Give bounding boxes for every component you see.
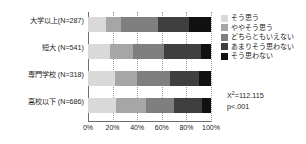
legend-item-1: ややそう思う	[221, 24, 306, 32]
bar-segment	[88, 44, 110, 59]
bar-segment	[164, 44, 201, 59]
bar-3	[88, 98, 211, 113]
y-axis-label-3: 高校以下 (N=686)	[28, 98, 84, 106]
x-tick-60: 60%	[155, 123, 169, 132]
bar-segment	[174, 98, 202, 113]
bar-segment	[110, 44, 133, 59]
x-tick-40: 40%	[130, 123, 144, 132]
bar-segment	[121, 17, 158, 32]
bar-segment	[88, 17, 106, 32]
bar-segment	[133, 44, 164, 59]
bar-segment	[158, 17, 189, 32]
legend-label: そう思わない	[231, 52, 273, 60]
bar-segment	[189, 17, 211, 32]
chi-square-value: =112.115	[235, 91, 264, 100]
x-axis-tick-labels: 0%20%40%60%80%100%	[88, 123, 211, 137]
y-axis-label-0: 大学以上(N=287)	[30, 17, 84, 25]
legend-label: どちらともいえない	[231, 33, 294, 41]
bar-1	[88, 44, 211, 59]
legend-item-3: あまりそう思わない	[221, 43, 306, 51]
bar-segment	[106, 17, 121, 32]
x-tick-80: 80%	[179, 123, 193, 132]
y-axis-category-labels: 大学以上(N=287) 短大 (N=541) 専門学校 (N=318) 高校以下…	[0, 0, 86, 122]
legend: そう思うややそう思うどちらともいえないあまりそう思わないそう思わない	[221, 14, 306, 62]
x-tick-20: 20%	[106, 123, 120, 132]
bar-segment	[115, 71, 137, 86]
gridline-100	[211, 12, 213, 122]
stacked-bar-chart: 大学以上(N=287) 短大 (N=541) 専門学校 (N=318) 高校以下…	[0, 0, 306, 144]
bars-container	[88, 12, 211, 122]
bar-2	[88, 71, 211, 86]
bar-0	[88, 17, 211, 32]
bar-segment	[170, 71, 198, 86]
bar-segment	[88, 98, 116, 113]
legend-swatch-icon	[221, 15, 228, 22]
bar-segment	[202, 98, 211, 113]
legend-item-4: そう思わない	[221, 52, 306, 60]
plot-area	[88, 12, 211, 122]
bar-segment	[201, 44, 211, 59]
x-tick-0: 0%	[83, 123, 93, 132]
bar-segment	[116, 98, 146, 113]
bar-segment	[88, 71, 115, 86]
x-tick-100: 100%	[202, 123, 220, 132]
p-value-line: p<.001	[227, 101, 303, 112]
bar-segment	[137, 71, 170, 86]
legend-swatch-icon	[221, 34, 228, 41]
legend-item-0: そう思う	[221, 14, 306, 22]
legend-swatch-icon	[221, 43, 228, 50]
legend-label: そう思う	[231, 14, 259, 22]
legend-item-2: どちらともいえない	[221, 33, 306, 41]
bar-segment	[199, 71, 211, 86]
legend-label: あまりそう思わない	[231, 43, 294, 51]
legend-swatch-icon	[221, 24, 228, 31]
legend-swatch-icon	[221, 53, 228, 60]
x-axis-line	[88, 121, 211, 122]
chi-square-line: X2=112.115	[227, 88, 303, 101]
y-axis-label-1: 短大 (N=541)	[42, 44, 84, 52]
statistics-annotation: X2=112.115 p<.001	[227, 88, 303, 112]
legend-label: ややそう思う	[231, 24, 273, 32]
y-axis-label-2: 専門学校 (N=318)	[28, 71, 84, 79]
bar-segment	[146, 98, 174, 113]
